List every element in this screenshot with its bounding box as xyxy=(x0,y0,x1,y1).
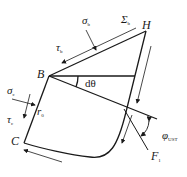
point-b-label: B xyxy=(37,68,44,80)
tau-b-label: τb xyxy=(56,42,62,54)
radial-line xyxy=(49,76,157,119)
sigma-b-label: σb xyxy=(82,15,90,27)
diagram-canvas: H B C σb Σb τb σc τc r0 dθ φUST F1 xyxy=(0,0,187,177)
Sigma-b-label: Σb xyxy=(121,14,130,26)
f1-label: F1 xyxy=(151,150,161,163)
sigma-c-arrow xyxy=(12,99,35,105)
point-h-label: H xyxy=(142,19,151,31)
right-upper-arrow xyxy=(137,46,151,103)
sigma-c-label: σc xyxy=(7,85,15,97)
edge-bh xyxy=(49,31,146,76)
point-c-label: C xyxy=(11,135,19,147)
tau-b-arrow xyxy=(62,28,136,63)
sigma-b-arrow xyxy=(86,30,96,50)
dtheta-arc xyxy=(76,76,78,87)
dtheta-label: dθ xyxy=(85,78,96,89)
r0-label: r0 xyxy=(37,106,44,118)
phi-arc xyxy=(141,121,149,136)
tau-c-arrow xyxy=(24,94,30,118)
tau-c-label: τc xyxy=(7,114,13,126)
f1-line xyxy=(124,109,148,150)
phi-ust-label: φUST xyxy=(162,130,178,142)
